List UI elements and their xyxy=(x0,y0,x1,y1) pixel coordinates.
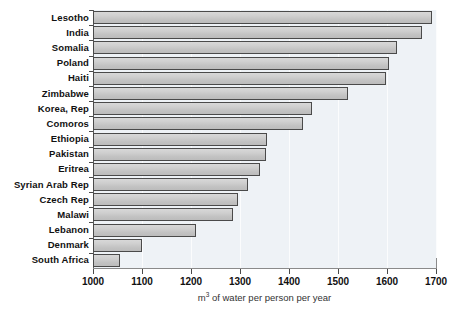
y-axis-tick xyxy=(89,131,93,132)
bar xyxy=(93,133,267,146)
bar-row xyxy=(93,117,436,130)
bar-row xyxy=(93,26,436,39)
y-axis-label: Haiti xyxy=(1,73,89,83)
bar xyxy=(93,208,233,221)
y-axis-label: Syrian Arab Rep xyxy=(1,180,89,190)
y-axis-label: Denmark xyxy=(1,240,89,250)
gridline xyxy=(436,10,437,268)
x-axis-tick-label: 1200 xyxy=(166,276,216,287)
x-axis-tick-label: 1100 xyxy=(117,276,167,287)
y-axis-tick xyxy=(89,10,93,11)
x-axis-tick-label: 1400 xyxy=(264,276,314,287)
y-axis-tick xyxy=(89,116,93,117)
bar-row xyxy=(93,102,436,115)
x-axis-tick xyxy=(387,269,388,274)
bar-row xyxy=(93,193,436,206)
y-axis-label: Czech Rep xyxy=(1,195,89,205)
y-axis-tick xyxy=(89,253,93,254)
x-axis-tick-label: 1000 xyxy=(68,276,118,287)
y-axis-label: Eritrea xyxy=(1,164,89,174)
bar-row xyxy=(93,239,436,252)
bar-row xyxy=(93,224,436,237)
x-axis-tick-label: 1700 xyxy=(411,276,460,287)
bar xyxy=(93,117,303,130)
x-axis-tick-label: 1300 xyxy=(215,276,265,287)
bar xyxy=(93,193,238,206)
bar xyxy=(93,224,196,237)
y-axis-category-labels: LesothoIndiaSomaliaPolandHaitiZimbabweKo… xyxy=(0,0,89,319)
x-axis-title-prefix: m xyxy=(198,292,206,303)
bar-row xyxy=(93,57,436,70)
y-axis-tick xyxy=(89,147,93,148)
x-axis-tick xyxy=(191,269,192,274)
bar-row xyxy=(93,163,436,176)
bar-row xyxy=(93,133,436,146)
bar xyxy=(93,26,422,39)
x-axis-tick xyxy=(240,269,241,274)
bar xyxy=(93,254,120,267)
y-axis-label: Zimbabwe xyxy=(1,89,89,99)
bar xyxy=(93,163,260,176)
y-axis-tick xyxy=(89,40,93,41)
bar-chart: LesothoIndiaSomaliaPolandHaitiZimbabweKo… xyxy=(0,0,460,319)
x-axis-line xyxy=(93,268,437,269)
bar-row xyxy=(93,72,436,85)
x-axis-title-suffix: of water per person per year xyxy=(209,292,331,303)
y-axis-label: South Africa xyxy=(1,255,89,265)
y-axis-label: India xyxy=(1,28,89,38)
bar-row xyxy=(93,11,436,24)
y-axis-label: Ethiopia xyxy=(1,134,89,144)
bar xyxy=(93,72,386,85)
x-axis-tick-label: 1500 xyxy=(313,276,363,287)
bar-row xyxy=(93,148,436,161)
y-axis-tick xyxy=(89,177,93,178)
x-axis-tick xyxy=(338,269,339,274)
bar xyxy=(93,239,142,252)
bar xyxy=(93,148,266,161)
y-axis-label: Lebanon xyxy=(1,225,89,235)
y-axis-label: Lesotho xyxy=(1,13,89,23)
bar xyxy=(93,178,248,191)
x-axis-tick xyxy=(142,269,143,274)
bar xyxy=(93,87,348,100)
y-axis-tick xyxy=(89,192,93,193)
y-axis-label: Comoros xyxy=(1,119,89,129)
y-axis-label: Somalia xyxy=(1,43,89,53)
x-axis-title: m3 of water per person per year xyxy=(93,292,436,303)
y-axis-label: Poland xyxy=(1,58,89,68)
y-axis-tick xyxy=(89,207,93,208)
y-axis-tick xyxy=(89,101,93,102)
y-axis-tick xyxy=(89,238,93,239)
plot-right-edge xyxy=(436,258,437,269)
bar-row xyxy=(93,254,436,267)
y-axis-tick xyxy=(89,86,93,87)
x-axis-tick xyxy=(289,269,290,274)
bar xyxy=(93,102,312,115)
bar-row xyxy=(93,178,436,191)
x-axis-tick-label: 1600 xyxy=(362,276,412,287)
bar xyxy=(93,57,389,70)
y-axis-tick xyxy=(89,162,93,163)
bar-row xyxy=(93,41,436,54)
y-axis-tick xyxy=(89,56,93,57)
bar xyxy=(93,11,432,24)
bar-row xyxy=(93,208,436,221)
y-axis-label: Pakistan xyxy=(1,149,89,159)
y-axis-label: Malawi xyxy=(1,210,89,220)
y-axis-label: Korea, Rep xyxy=(1,104,89,114)
bar-row xyxy=(93,87,436,100)
x-axis-tick xyxy=(436,269,437,274)
bar xyxy=(93,41,397,54)
y-axis-tick xyxy=(89,25,93,26)
y-axis-tick xyxy=(89,222,93,223)
y-axis-tick xyxy=(89,71,93,72)
x-axis-tick xyxy=(93,269,94,274)
